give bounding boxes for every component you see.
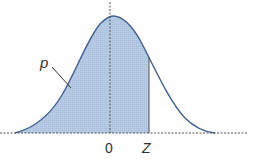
label-p: p [39, 54, 48, 71]
normal-distribution-diagram: p 0 Z [0, 0, 257, 163]
p-leader-line [52, 67, 71, 88]
label-z: Z [141, 140, 151, 156]
diagram-svg: p 0 Z [0, 0, 257, 163]
label-origin: 0 [105, 140, 113, 156]
shaded-area-p [15, 16, 149, 133]
